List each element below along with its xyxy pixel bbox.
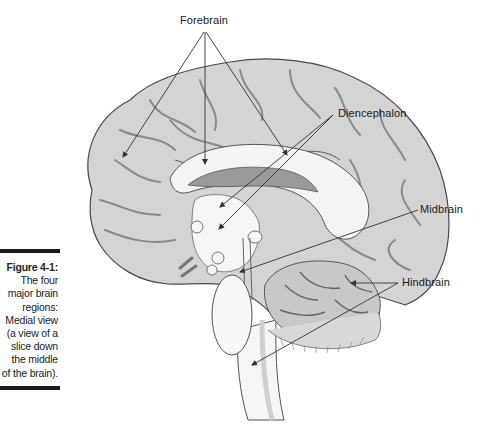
caption-line: (a view of a: [0, 327, 58, 340]
pons: [212, 275, 252, 355]
caption-line: major brain: [0, 287, 58, 300]
diencephalon-label: Diencephalon: [338, 107, 406, 119]
caption-line: of the brain).: [0, 367, 58, 380]
caption-bottom-rule: [0, 386, 60, 390]
figure-number: Figure 4-1:: [0, 261, 58, 274]
cerebellum: [264, 261, 380, 353]
caption-line: the middle: [0, 353, 58, 366]
figure-caption: Figure 4-1: The four major brain regions…: [0, 249, 58, 390]
caption-line: slice down: [0, 340, 58, 353]
caption-line: Medial view: [0, 314, 58, 327]
caption-line: regions:: [0, 301, 58, 314]
midbrain-label: Midbrain: [420, 203, 463, 215]
forebrain-label: Forebrain: [180, 14, 228, 26]
caption-top-rule: [0, 249, 60, 253]
hindbrain-label: Hindbrain: [402, 276, 450, 288]
caption-line: The four: [0, 274, 58, 287]
